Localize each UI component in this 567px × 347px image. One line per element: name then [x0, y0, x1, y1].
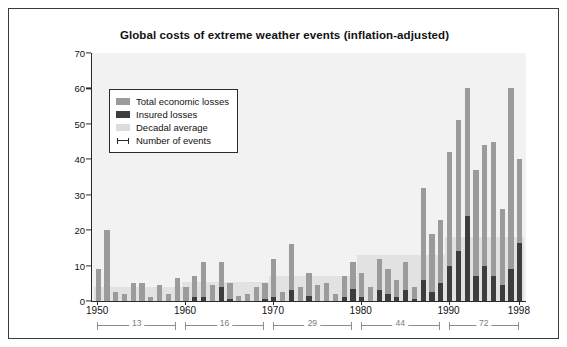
- y-axis: 010203040506070: [9, 53, 91, 301]
- bar-total-economic-losses: [227, 283, 232, 301]
- bar-insured-losses: [517, 243, 522, 301]
- y-axis-tick-label: 40: [74, 154, 85, 165]
- bar-total-economic-losses: [368, 287, 373, 301]
- bar-total-economic-losses: [289, 244, 294, 301]
- bar-total-economic-losses: [219, 262, 224, 301]
- bar-total-economic-losses: [403, 262, 408, 301]
- y-axis-tick-label: 20: [74, 225, 85, 236]
- bar-total-economic-losses: [482, 145, 487, 301]
- bar-total-economic-losses: [447, 152, 452, 301]
- bar-total-economic-losses: [201, 262, 206, 301]
- x-axis-tick-label: 1998: [508, 305, 530, 316]
- bar-total-economic-losses: [104, 230, 109, 301]
- bar-total-economic-losses: [491, 142, 496, 301]
- y-axis-tick-label: 50: [74, 118, 85, 129]
- x-axis: 195019601970198019901998: [91, 301, 525, 319]
- legend-label: Decadal average: [136, 122, 208, 133]
- bar-total-economic-losses: [306, 273, 311, 301]
- chart-page: Global costs of extreme weather events (…: [0, 0, 567, 347]
- y-axis-tick-label: 60: [74, 83, 85, 94]
- bar-total-economic-losses: [175, 278, 180, 301]
- chart-legend: Total economic lossesInsured lossesDecad…: [109, 89, 238, 153]
- event-count-value: 29: [305, 318, 320, 328]
- bracket-cap-left: [185, 322, 186, 330]
- bar-insured-losses: [289, 290, 294, 301]
- bar-insured-losses: [385, 294, 390, 301]
- y-axis-tick-label: 0: [80, 296, 85, 307]
- y-axis-tick-label: 30: [74, 189, 85, 200]
- bar-total-economic-losses: [412, 287, 417, 301]
- bar-total-economic-losses: [385, 269, 390, 301]
- chart-frame: Global costs of extreme weather events (…: [8, 8, 559, 339]
- bracket-cap-right: [175, 322, 176, 330]
- bar-total-economic-losses: [280, 292, 285, 301]
- event-count-bracket: 16: [185, 325, 264, 326]
- bar-total-economic-losses: [324, 283, 329, 301]
- bar-insured-losses: [482, 266, 487, 301]
- bar-total-economic-losses: [394, 280, 399, 301]
- number-of-events-icon: [116, 137, 130, 144]
- bar-insured-losses: [219, 287, 224, 301]
- bar-insured-losses: [377, 290, 382, 301]
- event-count-bracket: 72: [449, 325, 519, 326]
- bracket-cap-left: [449, 322, 450, 330]
- bracket-cap-right: [263, 322, 264, 330]
- bar-insured-losses: [438, 283, 443, 301]
- legend-item: Insured losses: [116, 108, 229, 121]
- bar-total-economic-losses: [421, 188, 426, 301]
- legend-item: Decadal average: [116, 121, 229, 134]
- y-axis-tick-label: 10: [74, 260, 85, 271]
- bar-total-economic-losses: [298, 287, 303, 301]
- bar-insured-losses: [500, 285, 505, 301]
- legend-item: Total economic losses: [116, 95, 229, 108]
- bar-total-economic-losses: [113, 292, 118, 301]
- legend-swatch: [116, 124, 130, 131]
- bar-total-economic-losses: [210, 285, 215, 301]
- bar-total-economic-losses: [508, 88, 513, 301]
- legend-swatch: [116, 98, 130, 105]
- bar-total-economic-losses: [131, 283, 136, 301]
- bracket-cap-right: [351, 322, 352, 330]
- bar-total-economic-losses: [429, 234, 434, 301]
- bar-total-economic-losses: [254, 287, 259, 301]
- legend-label: Number of events: [136, 135, 211, 146]
- bar-insured-losses: [403, 290, 408, 301]
- bar-total-economic-losses: [456, 120, 461, 301]
- legend-label: Insured losses: [136, 109, 197, 120]
- bracket-cap-right: [518, 322, 519, 330]
- bar-insured-losses: [456, 251, 461, 301]
- y-axis-tick-label: 70: [74, 48, 85, 59]
- chart-title: Global costs of extreme weather events (…: [9, 29, 560, 41]
- bar-total-economic-losses: [139, 283, 144, 301]
- bar-total-economic-losses: [157, 285, 162, 301]
- bar-insured-losses: [473, 276, 478, 301]
- x-axis-tick-label: 1970: [262, 305, 284, 316]
- event-count-value: 44: [393, 318, 408, 328]
- bar-insured-losses: [508, 269, 513, 301]
- legend-swatch: [116, 111, 130, 118]
- legend-label: Total economic losses: [136, 96, 229, 107]
- event-count-value: 13: [129, 318, 144, 328]
- bar-total-economic-losses: [500, 209, 505, 301]
- bar-total-economic-losses: [350, 262, 355, 301]
- event-count-brackets: 1316294472: [91, 319, 525, 339]
- bar-total-economic-losses: [96, 269, 101, 301]
- x-axis-tick-label: 1950: [86, 305, 108, 316]
- bar-total-economic-losses: [315, 285, 320, 301]
- bar-total-economic-losses: [517, 159, 522, 301]
- bar-total-economic-losses: [183, 287, 188, 301]
- bracket-cap-left: [97, 322, 98, 330]
- bracket-cap-right: [439, 322, 440, 330]
- bar-total-economic-losses: [192, 276, 197, 301]
- bar-total-economic-losses: [262, 283, 267, 301]
- x-axis-tick-label: 1990: [437, 305, 459, 316]
- bar-total-economic-losses: [122, 294, 127, 301]
- event-count-bracket: 44: [361, 325, 440, 326]
- bar-insured-losses: [447, 266, 452, 301]
- event-count-bracket: 29: [273, 325, 352, 326]
- bar-total-economic-losses: [245, 294, 250, 301]
- bar-total-economic-losses: [333, 294, 338, 301]
- bracket-cap-left: [361, 322, 362, 330]
- bar-total-economic-losses: [342, 276, 347, 301]
- bar-total-economic-losses: [166, 294, 171, 301]
